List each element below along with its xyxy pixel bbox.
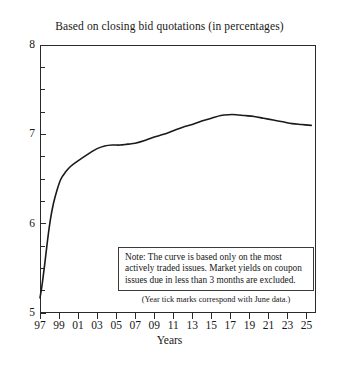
y-tick-label: 7: [19, 128, 35, 140]
y-tick-label: 5: [19, 307, 35, 319]
chart-figure: Based on closing bid quotations (in perc…: [0, 0, 339, 368]
y-major-tick: [40, 223, 46, 224]
y-minor-tick: [40, 156, 45, 157]
y-tick-label: 8: [19, 39, 35, 51]
y-minor-tick: [40, 290, 45, 291]
note-line-1: Note: The curve is based only on the mos…: [125, 252, 308, 263]
x-axis-title: Years: [0, 334, 339, 346]
y-minor-tick: [40, 268, 45, 269]
y-major-tick: [40, 45, 46, 46]
y-minor-tick: [40, 89, 45, 90]
y-major-tick: [40, 134, 46, 135]
y-minor-tick: [40, 201, 45, 202]
y-minor-tick: [40, 67, 45, 68]
y-minor-tick: [40, 112, 45, 113]
note-line-2: actively traded issues. Market yields on…: [125, 263, 308, 274]
x-tick-label: 25: [295, 319, 317, 332]
note-line-3: issues due in less than 3 months are exc…: [125, 275, 308, 286]
y-minor-tick: [40, 179, 45, 180]
chart-title: Based on closing bid quotations (in perc…: [0, 20, 339, 32]
y-tick-label: 6: [19, 218, 35, 230]
y-minor-tick: [40, 246, 45, 247]
note-box: Note: The curve is based only on the mos…: [118, 247, 314, 291]
tick-mark-note: (Year tick marks correspond with June da…: [118, 295, 314, 304]
